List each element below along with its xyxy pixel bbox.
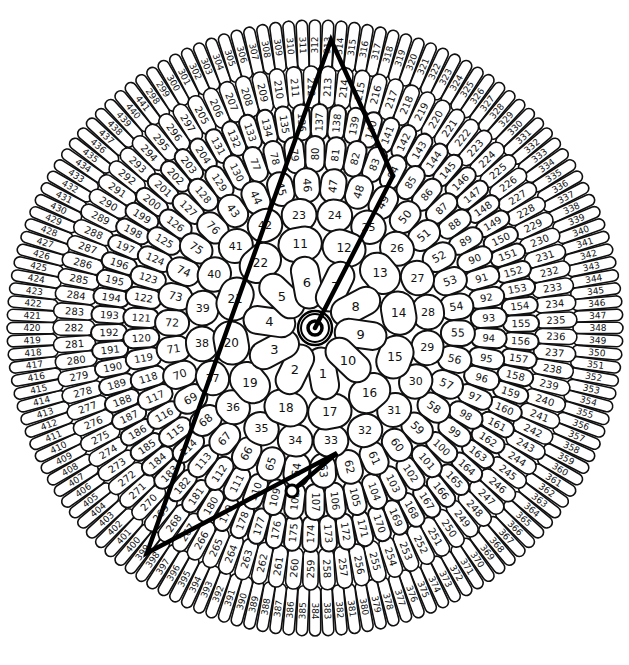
petal-number: 236 [546,331,565,343]
petal-234[interactable]: 234 [533,294,576,313]
petal-121[interactable]: 121 [123,307,160,328]
petal-348[interactable]: 348 [573,322,623,333]
petal-number: 347 [589,310,607,321]
petal-number: 191 [100,343,120,356]
petal-120[interactable]: 120 [123,327,160,348]
petal-number: 94 [482,332,495,344]
petal-80[interactable]: 80 [305,136,324,172]
petal-number: 350 [588,347,606,358]
petal-number: 35 [255,422,269,435]
petal-number: 36 [226,401,240,414]
petal-number: 93 [482,312,495,324]
petal-number: 47 [326,178,341,194]
petal-number: 154 [510,300,530,313]
petal-number: 257 [337,557,350,577]
petal-212[interactable]: 212 [303,66,319,108]
petal-211[interactable]: 211 [286,66,305,109]
petal-number: 71 [166,342,182,357]
petal-107[interactable]: 107 [305,484,324,520]
petal-number: 421 [23,310,41,321]
petal-156[interactable]: 156 [502,332,539,351]
petal-173[interactable]: 173 [319,515,338,552]
petal-number: 156 [511,335,531,347]
petal-192[interactable]: 192 [91,324,127,341]
petal-number: 1 [319,366,327,381]
petal-number: 121 [131,312,151,324]
petal-number: 386 [285,601,296,619]
petal-number: 17 [322,405,337,419]
petal-258[interactable]: 258 [318,547,335,590]
petal-number: 422 [24,298,42,309]
petal-number: 137 [314,112,325,131]
petal-number: 9 [356,327,364,342]
petal-number: 348 [589,323,606,333]
petal-number: 349 [589,335,607,346]
petal-281[interactable]: 281 [53,335,96,353]
petal-number: 155 [511,318,530,329]
petal-259[interactable]: 259 [303,548,319,590]
petal-93[interactable]: 93 [470,307,507,328]
petal-number: 95 [479,352,493,365]
petal-number: 173 [322,524,334,544]
petal-137[interactable]: 137 [311,104,328,140]
petal-number: 33 [324,434,338,447]
petal-number: 192 [99,327,118,338]
petal-155[interactable]: 155 [503,315,539,332]
petal-number: 23 [292,209,306,222]
petal-number: 54 [449,299,465,314]
petal-number: 213 [322,77,334,97]
petal-312[interactable]: 312 [309,20,320,70]
end-circle-icon [286,485,298,497]
petal-number: 260 [288,558,301,578]
petal-number: 106 [329,491,342,511]
petal-number: 3 [270,342,278,357]
petal-number: 175 [287,523,300,543]
petal-number: 174 [305,524,316,543]
petal-236[interactable]: 236 [535,328,578,345]
petal-number: 418 [24,347,42,358]
petal-number: 72 [165,316,179,329]
petal-number: 237 [545,346,565,359]
petal-number: 11 [293,237,308,251]
petal-number: 38 [195,337,209,350]
petal-384[interactable]: 384 [309,586,320,636]
petal-number: 46 [300,178,314,193]
petal-number: 5 [278,289,286,304]
petal-number: 259 [305,559,316,578]
petal-number: 19 [242,376,257,390]
petal-94[interactable]: 94 [470,327,507,348]
petal-number: 34 [288,434,302,447]
petal-number: 81 [329,148,341,162]
petal-number: 258 [321,559,333,579]
petal-347[interactable]: 347 [572,309,622,322]
petal-number: 234 [545,297,565,310]
petal-number: 385 [297,602,308,620]
petal-number: 55 [451,326,465,339]
petal-number: 30 [409,375,423,388]
petal-419[interactable]: 419 [7,334,57,347]
petal-number: 92 [479,291,493,304]
petal-46[interactable]: 46 [293,168,320,203]
petal-number: 419 [23,335,41,346]
petal-number: 310 [285,37,296,55]
petal-number: 41 [229,240,243,253]
petal-number: 29 [420,341,434,354]
petal-72[interactable]: 72 [155,310,190,337]
petal-383[interactable]: 383 [321,585,334,635]
petal-311[interactable]: 311 [296,20,309,70]
petal-235[interactable]: 235 [535,312,577,329]
petal-420[interactable]: 420 [7,322,57,333]
petal-number: 6 [303,275,311,290]
petal-174[interactable]: 174 [302,516,319,552]
petal-number: 39 [196,302,210,315]
petal-number: 8 [351,299,359,314]
petal-number: 382 [334,601,345,619]
petal-number: 420 [23,323,40,333]
petal-193[interactable]: 193 [91,306,128,325]
petal-55[interactable]: 55 [440,320,475,347]
petal-282[interactable]: 282 [53,320,95,335]
petal-number: 383 [322,602,333,620]
petal-number: 211 [289,78,302,98]
petal-number: 26 [390,242,404,255]
petal-number: 10 [340,353,357,368]
